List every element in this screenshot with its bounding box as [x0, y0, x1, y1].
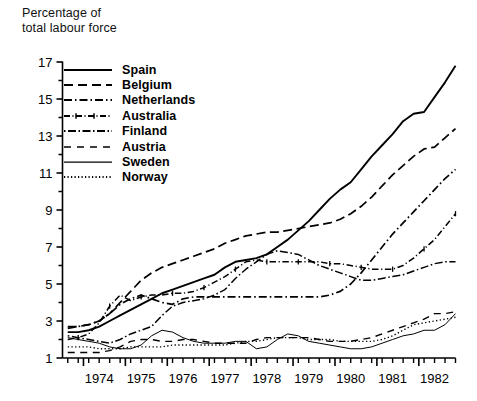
legend-swatch-spain: [63, 63, 113, 77]
legend-swatch-australia: [63, 109, 113, 123]
legend-label: Finland: [122, 124, 167, 138]
legend-item[interactable]: Belgium: [63, 77, 238, 92]
series-line-sweden: [68, 314, 456, 349]
y-tick-label: 17: [38, 55, 52, 70]
y-axis-title: Percentage of total labour force: [22, 6, 117, 36]
x-tick-label: 1977: [210, 371, 239, 386]
legend-item[interactable]: Austria: [63, 139, 238, 154]
legend-label: Belgium: [122, 78, 172, 92]
y-tick-label: 15: [38, 92, 52, 107]
legend-label: Sweden: [122, 155, 170, 169]
legend-item[interactable]: Spain: [63, 62, 238, 77]
line-chart-plot: 1357911131517197419751976197719781979198…: [0, 0, 477, 401]
x-tick-label: 1976: [169, 371, 198, 386]
legend-swatch-belgium: [63, 78, 113, 92]
x-tick-label: 1974: [85, 371, 114, 386]
legend-swatch-finland: [63, 124, 113, 138]
y-tick-label: 9: [45, 203, 52, 218]
series-line-norway: [68, 317, 456, 348]
legend-label: Norway: [122, 170, 168, 184]
series-line-netherlands: [68, 169, 456, 328]
legend-item[interactable]: Norway: [63, 170, 238, 185]
legend-item[interactable]: Finland: [63, 124, 238, 139]
legend-item[interactable]: Sweden: [63, 154, 238, 169]
chart-figure: Percentage of total labour force 1357911…: [0, 0, 477, 401]
y-tick-label: 1: [45, 351, 52, 366]
chart-legend: Spain Belgium Netherlands Australia Finl…: [63, 62, 238, 185]
series-line-austria: [68, 312, 456, 353]
x-tick-label: 1980: [336, 371, 365, 386]
legend-item[interactable]: Australia: [63, 108, 238, 123]
legend-label: Austria: [122, 140, 166, 154]
x-tick-label: 1975: [127, 371, 156, 386]
x-tick-label: 1982: [420, 371, 449, 386]
y-tick-label: 7: [45, 240, 52, 255]
legend-swatch-norway: [63, 170, 113, 184]
legend-item[interactable]: Netherlands: [63, 93, 238, 108]
y-tick-label: 11: [39, 166, 53, 181]
legend-label: Australia: [122, 109, 176, 123]
legend-swatch-netherlands: [63, 93, 113, 107]
x-tick-label: 1981: [378, 371, 407, 386]
legend-label: Netherlands: [122, 93, 195, 107]
x-tick-label: 1979: [294, 371, 323, 386]
y-tick-label: 5: [45, 277, 52, 292]
x-tick-label: 1978: [252, 371, 281, 386]
legend-swatch-austria: [63, 140, 113, 154]
legend-label: Spain: [122, 63, 157, 77]
legend-swatch-sweden: [63, 155, 113, 169]
y-tick-label: 13: [38, 129, 52, 144]
y-tick-label: 3: [45, 314, 52, 329]
